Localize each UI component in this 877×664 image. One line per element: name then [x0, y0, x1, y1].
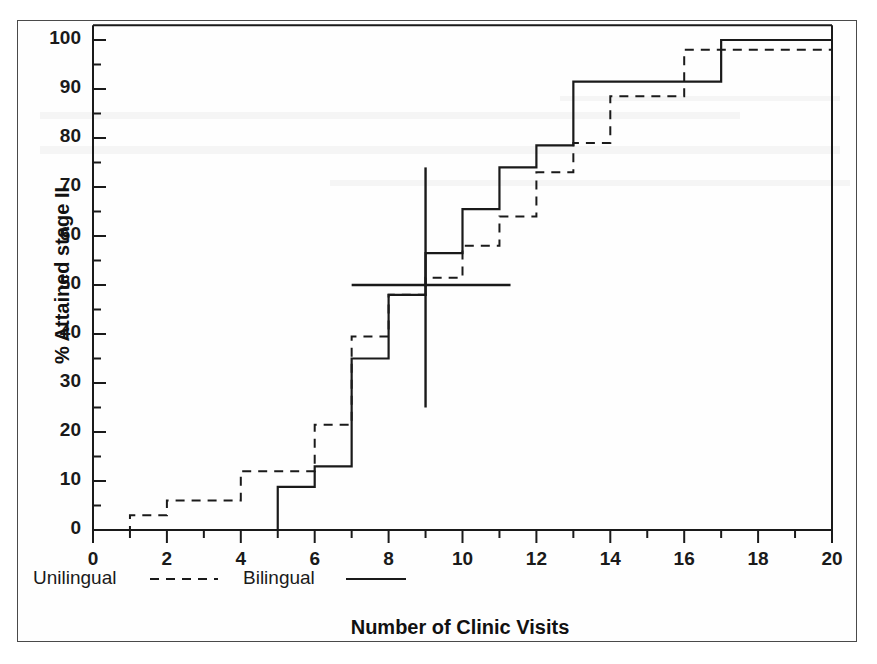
x-tick-label: 16 [654, 548, 714, 570]
y-tick-label: 100 [13, 27, 81, 49]
y-axis-title: % Attained stage II [51, 151, 74, 401]
legend-swatch-bilingual-solid [346, 576, 408, 582]
median-crosshair [352, 167, 511, 407]
x-tick-label: 8 [359, 548, 419, 570]
y-tick-label: 80 [13, 125, 81, 147]
x-axis-title: Number of Clinic Visits [250, 616, 670, 639]
x-tick-label: 10 [433, 548, 493, 570]
figure-container: 0102030405060708090100 02468101214161820… [0, 0, 877, 664]
y-tick-label: 10 [13, 468, 81, 490]
legend-label-unilingual: Unilingual [33, 567, 116, 589]
x-tick-label: 18 [728, 548, 788, 570]
x-tick-label: 2 [137, 548, 197, 570]
y-tick-label: 20 [13, 419, 81, 441]
legend-swatch-unilingual-dashed [150, 576, 220, 582]
x-tick-label: 12 [506, 548, 566, 570]
legend-label-bilingual: Bilingual [243, 567, 315, 589]
series-line-unilingual [93, 50, 832, 530]
y-tick-label: 90 [13, 76, 81, 98]
x-tick-label: 14 [580, 548, 640, 570]
x-tick-label: 20 [802, 548, 862, 570]
y-tick-label: 0 [13, 517, 81, 539]
